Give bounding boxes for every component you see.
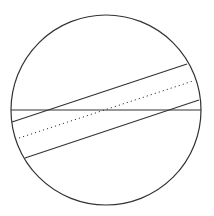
circle-strip-diagram [0,0,214,216]
diagram-canvas [0,0,214,216]
